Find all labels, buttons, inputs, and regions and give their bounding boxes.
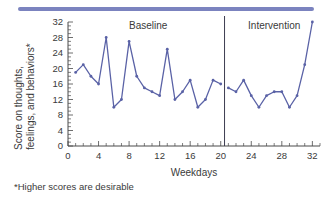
- data-point: [189, 79, 192, 82]
- phase-label-baseline: Baseline: [129, 20, 168, 31]
- data-point: [219, 83, 222, 86]
- chart-footnote: *Higher scores are desirable: [14, 181, 134, 192]
- y-tick-label: 28: [52, 32, 63, 43]
- data-line-intervention: [228, 22, 312, 107]
- y-tick-label: 0: [58, 140, 63, 151]
- data-point: [97, 83, 100, 86]
- data-point: [112, 106, 115, 109]
- x-tick-label: 0: [65, 150, 70, 161]
- data-point: [174, 98, 177, 101]
- x-tick-label: 16: [185, 150, 196, 161]
- data-point: [181, 90, 184, 93]
- data-point: [166, 48, 169, 51]
- phase-labels: BaselineIntervention: [129, 20, 300, 31]
- y-axis-title-line1: Score on thoughts,: [13, 66, 24, 150]
- data-point: [151, 90, 154, 93]
- x-tick-label: 24: [246, 150, 257, 161]
- data-point: [288, 106, 291, 109]
- y-tick-label: 16: [52, 78, 63, 89]
- data-point: [158, 94, 161, 97]
- x-tick-label: 28: [277, 150, 288, 161]
- data-point: [227, 86, 230, 89]
- x-axis-title: Weekdays: [171, 167, 218, 178]
- data-series: [74, 21, 314, 109]
- x-tick-label: 4: [96, 150, 101, 161]
- x-tick-label: 20: [215, 150, 226, 161]
- y-tick-label: 32: [52, 16, 63, 27]
- x-tick-label: 8: [126, 150, 131, 161]
- y-axis-title-line2: feelings, and behaviors*: [25, 43, 36, 150]
- data-point: [196, 106, 199, 109]
- data-point: [212, 79, 215, 82]
- chart-svg: Score on thoughts, feelings, and behavio…: [0, 0, 330, 198]
- data-point: [204, 98, 207, 101]
- data-point: [296, 94, 299, 97]
- x-tick-label: 32: [307, 150, 318, 161]
- phase-label-intervention: Intervention: [248, 20, 300, 31]
- x-tick-label: 12: [154, 150, 165, 161]
- data-point: [303, 63, 306, 66]
- data-point: [280, 90, 283, 93]
- data-point: [74, 71, 77, 74]
- data-point: [242, 79, 245, 82]
- y-tick-label: 8: [58, 109, 63, 120]
- data-point: [82, 63, 85, 66]
- line-chart: Score on thoughts, feelings, and behavio…: [0, 0, 330, 198]
- data-point: [120, 98, 123, 101]
- data-line-baseline: [76, 38, 221, 108]
- y-axis-tick-labels: 048121620242832: [52, 16, 63, 151]
- y-axis-title: Score on thoughts, feelings, and behavio…: [13, 43, 36, 150]
- y-tick-label: 4: [58, 125, 63, 136]
- data-point: [143, 86, 146, 89]
- y-axis-ticks: [68, 22, 73, 146]
- data-point: [250, 94, 253, 97]
- data-point: [265, 94, 268, 97]
- data-point: [90, 75, 93, 78]
- data-point: [273, 90, 276, 93]
- data-point: [311, 21, 314, 24]
- x-axis-tick-labels: 048121620242832: [65, 150, 317, 161]
- y-tick-label: 12: [52, 94, 63, 105]
- data-point: [235, 90, 238, 93]
- data-point: [258, 106, 261, 109]
- data-point: [135, 75, 138, 78]
- data-point: [105, 36, 108, 39]
- data-point: [128, 40, 131, 43]
- y-tick-label: 20: [52, 63, 63, 74]
- y-tick-label: 24: [52, 47, 63, 58]
- x-axis-ticks: [68, 141, 320, 146]
